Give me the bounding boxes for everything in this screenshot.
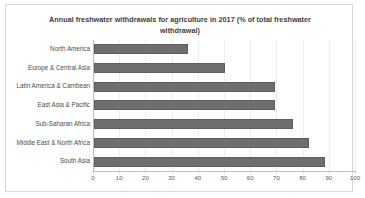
x-tick-mark bbox=[145, 171, 146, 173]
x-tick-label: 100 bbox=[345, 175, 365, 181]
bar-row: Middle East & North Africa bbox=[94, 134, 356, 153]
x-tick-mark bbox=[224, 171, 225, 173]
bar bbox=[94, 82, 275, 92]
x-tick-label: 10 bbox=[109, 175, 129, 181]
x-tick-mark bbox=[276, 171, 277, 173]
chart-frame: Annual freshwater withdrawals for agricu… bbox=[5, 4, 353, 192]
x-tick-label: 50 bbox=[214, 175, 234, 181]
x-tick-label: 30 bbox=[162, 175, 182, 181]
x-tick-label: 60 bbox=[240, 175, 260, 181]
x-tick-label: 0 bbox=[83, 175, 103, 181]
category-label: Europe & Central Asia bbox=[28, 59, 90, 78]
category-label: Sub-Saharan Africa bbox=[35, 115, 90, 134]
category-label: Latin America & Carribean bbox=[17, 77, 91, 96]
bar-row: Europe & Central Asia bbox=[94, 59, 356, 78]
bar-row: South Asia bbox=[94, 152, 356, 171]
x-tick-mark bbox=[355, 171, 356, 173]
bar bbox=[94, 138, 309, 148]
bar-row: North America bbox=[94, 40, 356, 59]
x-tick-label: 70 bbox=[266, 175, 286, 181]
x-tick-mark bbox=[93, 171, 94, 173]
bar-row: East Asia & Pacific bbox=[94, 96, 356, 115]
x-tick-mark bbox=[303, 171, 304, 173]
category-label: East Asia & Pacific bbox=[38, 96, 91, 115]
bar-row: Sub-Saharan Africa bbox=[94, 115, 356, 134]
bar bbox=[94, 100, 275, 110]
plot-area: North AmericaEurope & Central AsiaLatin … bbox=[93, 40, 355, 171]
category-label: Middle East & North Africa bbox=[17, 134, 91, 153]
x-tick-label: 20 bbox=[135, 175, 155, 181]
x-tick-label: 40 bbox=[188, 175, 208, 181]
x-tick-mark bbox=[198, 171, 199, 173]
x-tick-mark bbox=[172, 171, 173, 173]
x-tick-label: 80 bbox=[293, 175, 313, 181]
x-tick-mark bbox=[250, 171, 251, 173]
bar-row: Latin America & Carribean bbox=[94, 77, 356, 96]
x-tick-mark bbox=[329, 171, 330, 173]
x-tick-label: 90 bbox=[319, 175, 339, 181]
bar bbox=[94, 63, 225, 73]
bar bbox=[94, 44, 188, 54]
chart-title: Annual freshwater withdrawals for agricu… bbox=[32, 14, 328, 36]
bar bbox=[94, 119, 293, 129]
category-label: North America bbox=[50, 40, 90, 59]
x-tick-mark bbox=[119, 171, 120, 173]
category-label: South Asia bbox=[60, 152, 90, 171]
bar bbox=[94, 157, 325, 167]
